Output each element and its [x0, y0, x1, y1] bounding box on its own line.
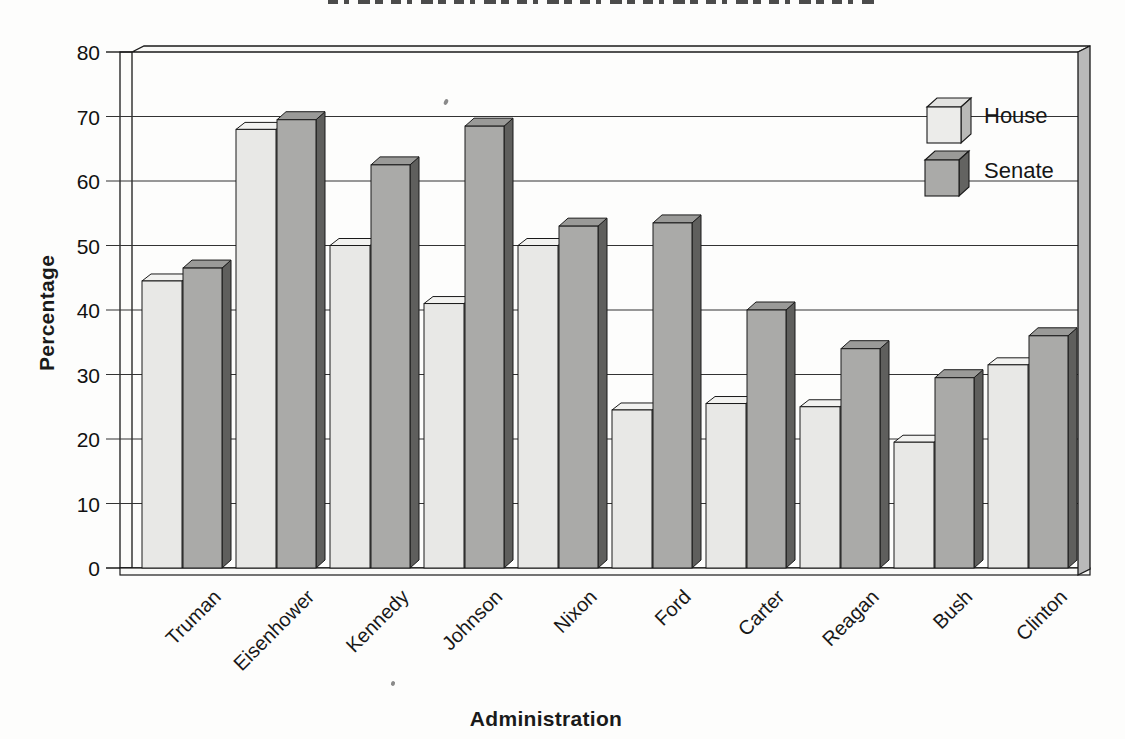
y-tick-label-20: 20	[48, 429, 100, 450]
legend-swatch-senate	[925, 151, 969, 196]
x-axis-title: Administration	[470, 707, 622, 731]
scanned-bar-chart-figure: Percentage Administration 01020304050607…	[0, 0, 1125, 739]
y-tick-label-50: 50	[48, 236, 100, 257]
legend-swatch-house	[927, 98, 971, 143]
bar-senate-truman	[183, 260, 231, 568]
y-tick-label-70: 70	[48, 107, 100, 128]
y-tick-label-40: 40	[48, 300, 100, 321]
bar-senate-nixon	[559, 218, 607, 568]
back-wall-top-band	[132, 46, 1090, 52]
y-tick-label-80: 80	[48, 42, 100, 63]
bar-senate-bush	[935, 370, 983, 568]
bar-senate-kennedy	[371, 157, 419, 568]
legend-label-house: House	[984, 103, 1048, 129]
right-wall	[1078, 46, 1090, 575]
bar-senate-eisenhower	[277, 112, 325, 568]
y-tick-label-60: 60	[48, 171, 100, 192]
bar-senate-clinton	[1029, 328, 1077, 568]
y-tick-label-0: 0	[48, 558, 100, 579]
bar-senate-reagan	[841, 341, 889, 568]
y-tick-label-30: 30	[48, 365, 100, 386]
legend-label-senate: Senate	[984, 158, 1054, 184]
y-tick-label-10: 10	[48, 494, 100, 515]
bar-senate-ford	[653, 215, 701, 568]
bar-senate-johnson	[465, 118, 513, 568]
floor	[120, 568, 1090, 575]
bar-senate-carter	[747, 302, 795, 568]
